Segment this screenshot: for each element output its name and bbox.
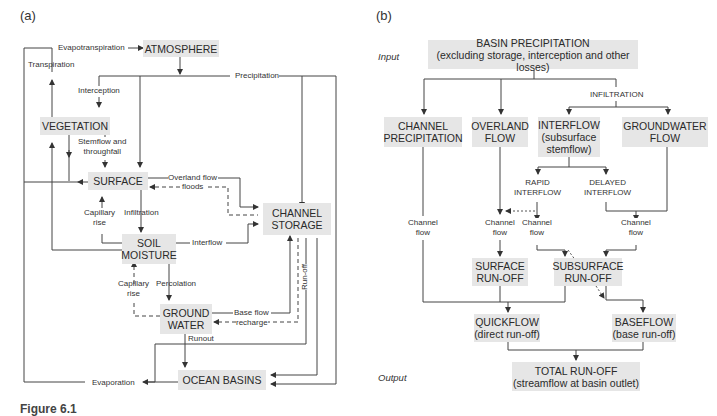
interflow-line3: stemflow) <box>547 143 592 155</box>
channel-flow-label-3: Channelflow <box>522 218 552 237</box>
channel-precipitation-box: CHANNELPRECIPITATION <box>384 117 462 147</box>
vegetation-box: VEGETATION <box>40 117 110 135</box>
run-off-label: Run-off <box>300 264 310 290</box>
atmosphere-label: ATMOSPHERE <box>145 43 218 55</box>
total-runoff-line1: TOTAL RUN-OFF <box>535 365 618 377</box>
surface-label: SURFACE <box>93 175 143 187</box>
groundwater-flow-line2: FLOW <box>650 132 680 144</box>
rapid-interflow-label: RAPIDINTERFLOW <box>514 178 561 197</box>
basin-precipitation-box: BASIN PRECIPITATION(excluding storage, i… <box>428 40 638 69</box>
total-runoff-box: TOTAL RUN-OFF(streamflow at basin outlet… <box>512 362 640 391</box>
channel-storage-label-1: CHANNEL <box>272 207 322 219</box>
rapid-line1: RAPID <box>525 178 549 187</box>
surface-runoff-box: SURFACERUN-OFF <box>472 258 528 286</box>
channel-storage-label-2: STORAGE <box>271 219 322 231</box>
capillary-rise-2-line1: Capillary <box>118 279 149 288</box>
capillary-rise-2-line2: rise <box>127 289 140 298</box>
delayed-line1: DELAYED <box>589 178 626 187</box>
basin-precipitation-subtitle: (excluding storage, interception and oth… <box>428 49 638 73</box>
subsurface-runoff-box: SUBSURFACERUN-OFF <box>554 258 622 286</box>
delayed-interflow-label: DELAYEDINTERFLOW <box>584 178 631 197</box>
channel-flow-4-line2: flow <box>629 228 643 237</box>
stemflow-line2: throughfall <box>84 147 121 156</box>
channel-flow-label-2: Channelflow <box>485 218 515 237</box>
groundwater-flow-line1: GROUNDWATER <box>623 120 706 132</box>
subsurface-runoff-line1: SUBSURFACE <box>552 260 623 272</box>
ocean-basins-label: OCEAN BASINS <box>183 374 262 386</box>
surface-runoff-line2: RUN-OFF <box>476 272 523 284</box>
capillary-rise-line2: rise <box>93 218 106 227</box>
quickflow-line1: QUICKFLOW <box>475 316 539 328</box>
interflow-line2: (subsurface <box>542 131 597 143</box>
figure-caption: Figure 6.1 <box>20 402 77 416</box>
surface-runoff-line1: SURFACE <box>475 260 525 272</box>
overland-flow-line2: FLOW <box>485 132 515 144</box>
channel-flow-3-line1: Channel <box>522 218 552 227</box>
channel-flow-label-4: Channelflow <box>621 218 651 237</box>
quickflow-line2: (direct run-off) <box>474 328 540 340</box>
baseflow-line1: BASEFLOW <box>615 316 673 328</box>
channel-precipitation-line1: CHANNEL <box>398 120 448 132</box>
infiltration-b-label: INFILTRATION <box>590 90 643 100</box>
floods-label: floods <box>182 182 203 192</box>
quickflow-box: QUICKFLOW(direct run-off) <box>474 314 540 342</box>
subsurface-runoff-line2: RUN-OFF <box>564 272 611 284</box>
stemflow-line1: Stemflow and <box>78 137 126 146</box>
base-flow-label: Base flow <box>234 308 269 318</box>
soil-moisture-label-2: MOISTURE <box>121 249 176 261</box>
channel-flow-2-line2: flow <box>493 228 507 237</box>
ocean-basins-box: OCEAN BASINS <box>178 370 266 390</box>
channel-flow-4-line1: Channel <box>621 218 651 227</box>
evapotranspiration-label: Evapotranspiration <box>58 43 125 53</box>
rapid-line2: INTERFLOW <box>514 188 561 197</box>
channel-flow-3-line2: flow <box>530 228 544 237</box>
delayed-line2: INTERFLOW <box>584 188 631 197</box>
interflow-box: INTERFLOW(subsurfacestemflow) <box>538 117 600 157</box>
panel-a-label: (a) <box>20 8 36 23</box>
channel-flow-1-line1: Channel <box>408 218 438 227</box>
ground-water-label-1: GROUND <box>163 307 210 319</box>
baseflow-line2: (base run-off) <box>613 328 676 340</box>
soil-moisture-label-1: SOIL <box>137 237 161 249</box>
ground-water-box: GROUNDWATER <box>160 304 212 334</box>
evaporation-label: Evaporation <box>92 378 135 388</box>
overland-flow-box: OVERLANDFLOW <box>472 117 528 147</box>
input-label: Input <box>378 51 399 62</box>
interflow-line1: INTERFLOW <box>538 119 600 131</box>
vegetation-label: VEGETATION <box>42 120 108 132</box>
runout-label: Runout <box>188 334 214 344</box>
baseflow-box: BASEFLOW(base run-off) <box>612 314 676 342</box>
basin-precipitation-title: BASIN PRECIPITATION <box>476 37 589 49</box>
groundwater-flow-box: GROUNDWATERFLOW <box>622 117 708 147</box>
interception-label: Interception <box>78 86 120 96</box>
channel-flow-2-line1: Channel <box>485 218 515 227</box>
transpiration-label: Transpiration <box>28 60 74 70</box>
output-label: Output <box>378 372 407 383</box>
infiltration-label: Infiltration <box>124 208 159 218</box>
total-runoff-line2: (streamflow at basin outlet) <box>513 377 639 389</box>
panel-b-label: (b) <box>376 8 392 23</box>
capillary-rise-line1: Capillary <box>84 208 115 217</box>
interflow-label: Interflow <box>192 238 222 248</box>
channel-flow-label-1: Channelflow <box>408 218 438 237</box>
ground-water-label-2: WATER <box>168 319 205 331</box>
soil-moisture-box: SOILMOISTURE <box>122 234 176 264</box>
channel-flow-1-line2: flow <box>416 228 430 237</box>
precipitation-label: Precipitation <box>235 71 279 81</box>
overland-flow-line1: OVERLAND <box>471 120 529 132</box>
channel-precipitation-line2: PRECIPITATION <box>384 132 463 144</box>
atmosphere-box: ATMOSPHERE <box>143 40 219 57</box>
percolation-label: Percolation <box>156 279 196 289</box>
surface-box: SURFACE <box>88 172 148 190</box>
capillary-rise-2-label: Capillaryrise <box>118 279 149 298</box>
channel-storage-box: CHANNELSTORAGE <box>263 203 331 235</box>
capillary-rise-label: Capillaryrise <box>84 208 115 227</box>
stemflow-label: Stemflow andthroughfall <box>78 137 126 156</box>
recharge-label: recharge <box>236 318 268 328</box>
